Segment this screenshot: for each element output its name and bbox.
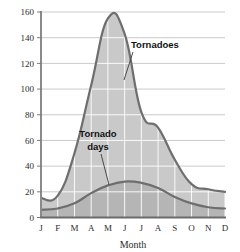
- x-tick-label: A: [155, 223, 162, 233]
- x-tick-label: M: [70, 223, 78, 233]
- x-tick-label: J: [123, 223, 127, 233]
- y-tick-label: 120: [21, 59, 35, 69]
- y-tick-label: 80: [25, 110, 35, 120]
- x-axis-title: Month: [120, 239, 147, 250]
- tornado-area-chart: 020406080100120140160 JFMAMJJASOND Month…: [0, 0, 240, 252]
- x-tick-label: F: [55, 223, 60, 233]
- annotation-tornado-days-label-line1: Tornado: [79, 128, 116, 139]
- y-tick-label: 20: [25, 187, 35, 197]
- y-tick-label: 100: [21, 84, 35, 94]
- y-tick-label: 160: [21, 7, 35, 17]
- y-tick-label: 40: [25, 161, 35, 171]
- x-tick-label: A: [88, 223, 95, 233]
- y-tick-label: 0: [30, 213, 35, 223]
- x-tick-label: M: [104, 223, 112, 233]
- x-tick-label: O: [188, 223, 195, 233]
- y-tick-label: 60: [25, 136, 35, 146]
- y-tick-label: 140: [21, 33, 35, 43]
- x-axis-ticks: JFMAMJJASOND: [39, 223, 229, 233]
- x-tick-label: J: [39, 223, 43, 233]
- x-tick-label: J: [140, 223, 144, 233]
- x-tick-label: N: [205, 223, 212, 233]
- annotation-tornadoes-label: Tornadoes: [131, 39, 179, 50]
- chart-figure: 020406080100120140160 JFMAMJJASOND Month…: [0, 0, 240, 252]
- x-tick-label: D: [222, 223, 229, 233]
- y-axis-ticks: 020406080100120140160: [21, 7, 42, 223]
- annotation-tornado-days-label-line2: days: [87, 141, 109, 152]
- x-tick-label: S: [172, 223, 177, 233]
